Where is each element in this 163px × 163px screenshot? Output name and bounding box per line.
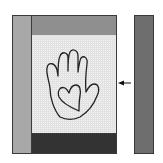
arrow-left-icon — [0, 0, 163, 163]
